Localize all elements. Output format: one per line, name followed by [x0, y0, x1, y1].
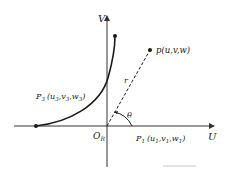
polar-coordinate-diagram: V U OR p(u,v,w) r θ P3(u3,v3,w3) P1(u1,v… — [0, 0, 229, 175]
theta-label: θ — [127, 111, 132, 120]
point-p-label: p(u,v,w) — [156, 45, 190, 55]
u-axis-label: U — [208, 131, 217, 142]
radius-label: r — [124, 76, 129, 85]
curve-end-point — [113, 34, 117, 38]
arc-curve — [36, 36, 115, 126]
p1-label: P1(u1,v1,w1) — [135, 134, 185, 144]
curve-start-point — [34, 124, 38, 128]
p3-label: P3(u3,v3,w3) — [35, 92, 85, 102]
point-p — [148, 48, 152, 52]
origin-label: OR — [93, 131, 105, 142]
v-axis-label: V — [98, 13, 107, 24]
